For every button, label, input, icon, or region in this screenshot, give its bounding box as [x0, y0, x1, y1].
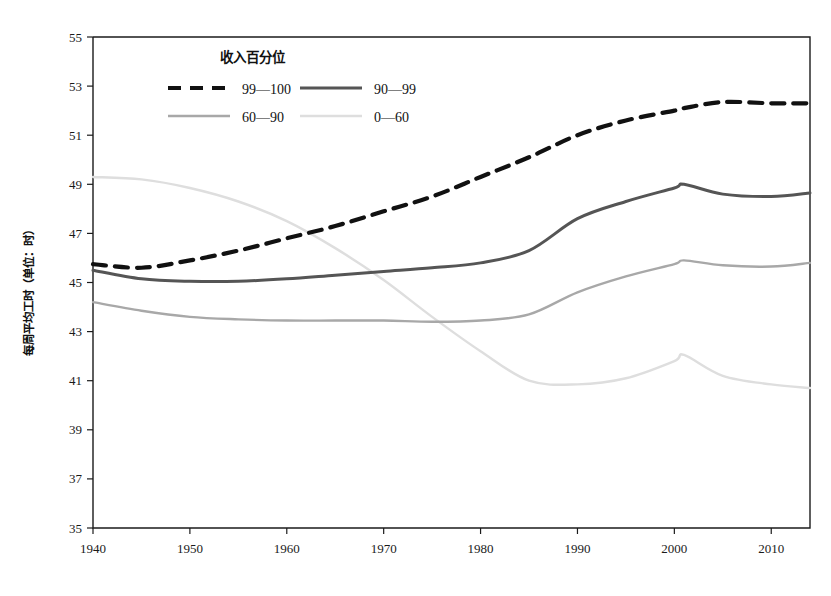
y-tick-label: 41 [69, 373, 82, 388]
y-tick-label: 47 [69, 226, 83, 241]
x-tick-label: 1980 [468, 541, 494, 556]
x-tick-label: 1970 [371, 541, 397, 556]
y-tick-label: 35 [69, 521, 82, 536]
tick-labels: 3537394143454749515355194019501960197019… [69, 30, 784, 557]
series-line-90-99 [93, 184, 810, 282]
y-tick-label: 37 [69, 471, 83, 486]
x-tick-label: 1950 [177, 541, 203, 556]
y-axis-title-text: 每周平均工时（单位：时） [22, 224, 35, 356]
legend-label-0-60: 0—60 [374, 110, 409, 125]
x-tick-label: 2000 [661, 541, 687, 556]
legend-label-60-90: 60—90 [242, 110, 284, 125]
series-line-99-100 [93, 102, 810, 268]
chart-container: 3537394143454749515355194019501960197019… [0, 0, 831, 596]
y-tick-label: 45 [69, 275, 82, 290]
line-chart-figure: 3537394143454749515355194019501960197019… [0, 0, 831, 596]
y-axis-title: 每周平均工时（单位：时） [22, 224, 35, 356]
y-tick-label: 51 [69, 128, 82, 143]
x-tick-label: 1990 [564, 541, 590, 556]
series-lines [93, 102, 810, 388]
y-tick-label: 43 [69, 324, 82, 339]
series-line-60-90 [93, 260, 810, 321]
y-tick-label: 39 [69, 422, 82, 437]
y-tick-label: 53 [69, 79, 82, 94]
legend-title: 收入百分位 [220, 49, 286, 65]
x-tick-label: 1960 [274, 541, 300, 556]
y-tick-label: 55 [69, 30, 82, 45]
axes [87, 37, 810, 534]
x-tick-label: 2010 [758, 541, 784, 556]
chart-legend: 收入百分位99—10090—9960—900—60 [168, 49, 416, 125]
y-tick-label: 49 [69, 177, 82, 192]
legend-label-90-99: 90—99 [374, 82, 416, 97]
x-tick-label: 1940 [80, 541, 106, 556]
legend-label-99-100: 99—100 [242, 82, 291, 97]
